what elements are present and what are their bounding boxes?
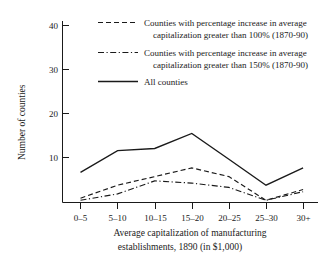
y-tick-label-10: 10 [49,153,59,163]
x-tick-label-5: 25–30 [255,213,278,223]
series-group [81,133,304,200]
x-tick-labels: 0–5 5–10 10–15 15–20 20–25 25–30 30+ [74,213,311,223]
legend-label-1-line2: capitalization greater than 150% (1870-9… [153,60,308,70]
y-tick-label-40: 40 [49,21,59,31]
x-tick-label-4: 20–25 [218,213,241,223]
x-axis-ticks [81,203,304,210]
x-tick-label-6: 30+ [296,213,310,223]
legend-label-2-line1: All counties [144,77,188,87]
y-axis-ticks [63,26,70,158]
y-tick-label-30: 30 [49,65,59,75]
legend-label-1-line1: Counties with percentage increase in ave… [144,48,307,58]
x-axis-title-line2: establishments, 1890 (in $1,000) [118,242,242,253]
series-all-counties [81,133,304,185]
x-tick-label-2: 10–15 [144,213,167,223]
y-tick-label-20: 20 [49,109,59,119]
x-axis-title-line1: Average capitalization of manufacturing [113,228,266,238]
x-tick-label-3: 15–20 [181,213,204,223]
chart-figure: 40 30 20 10 Number of counties 0–5 5–10 … [0,0,335,267]
line-chart-canvas: 40 30 20 10 Number of counties 0–5 5–10 … [0,0,335,267]
legend-label-0-line2: capitalization greater than 100% (1870-9… [153,30,308,40]
legend-label-0-line1: Counties with percentage increase in ave… [144,18,307,28]
x-tick-label-0: 0–5 [74,213,88,223]
legend: Counties with percentage increase in ave… [98,18,308,87]
y-axis-title: Number of counties [17,84,27,160]
x-tick-label-1: 5–10 [109,213,128,223]
y-tick-labels: 40 30 20 10 [49,21,59,163]
